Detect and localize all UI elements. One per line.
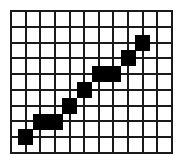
filled-pixel	[48, 114, 63, 130]
grid-vertical-line	[69, 10, 71, 154]
filled-pixel	[106, 66, 121, 82]
filled-pixel	[77, 82, 92, 98]
grid-horizontal-line	[10, 26, 173, 28]
grid-vertical-line	[98, 10, 100, 154]
filled-pixel	[33, 114, 48, 130]
grid-horizontal-line	[10, 105, 173, 107]
grid-vertical-line	[10, 10, 12, 154]
grid-vertical-line	[54, 10, 56, 154]
grid-vertical-line	[156, 10, 158, 154]
filled-pixel	[18, 129, 33, 145]
grid-horizontal-line	[10, 10, 173, 12]
filled-pixel	[92, 66, 107, 82]
filled-pixel	[121, 50, 136, 66]
grid-vertical-line	[127, 10, 129, 154]
grid-vertical-line	[112, 10, 114, 154]
grid-vertical-line	[142, 10, 144, 154]
grid-vertical-line	[39, 10, 41, 154]
grid-horizontal-line	[10, 152, 173, 154]
filled-pixel	[135, 35, 150, 51]
grid-horizontal-line	[10, 136, 173, 138]
pixel-grid	[11, 11, 172, 153]
grid-vertical-line	[171, 10, 173, 154]
filled-pixel	[62, 98, 77, 114]
grid-horizontal-line	[10, 57, 173, 59]
